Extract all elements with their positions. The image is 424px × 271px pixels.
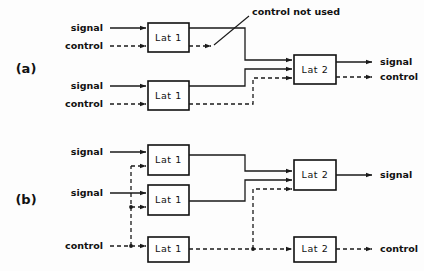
- panel-b-label: (b): [15, 192, 36, 207]
- panel-b-junction-dot-middle: [129, 205, 133, 209]
- panel-a-annotation-control-not-used: control not used: [252, 6, 340, 17]
- panel-b-box-lat1-middle-label: Lat 1: [155, 194, 182, 205]
- latch-pipeline-diagram: (a) signal control signal control Lat 1 …: [0, 0, 424, 271]
- panel-a-box-lat1-lower-label: Lat 1: [155, 90, 182, 101]
- panel-a-input-label-control-2: control: [65, 98, 103, 109]
- panel-b-junction-dot-control-tap: [251, 247, 255, 251]
- panel-a-input-label-control-1: control: [65, 40, 103, 51]
- panel-a-box-lat2-label: Lat 2: [302, 64, 329, 75]
- panel-b-output-label-signal: signal: [380, 169, 412, 180]
- panel-a-label: (a): [16, 61, 37, 76]
- panel-b-input-label-signal-1: signal: [71, 146, 103, 157]
- panel-b-box-lat1-bottom-label: Lat 1: [155, 243, 182, 254]
- panel-a-box-lat1-upper-label: Lat 1: [155, 32, 182, 43]
- panel-b-input-label-signal-2: signal: [71, 187, 103, 198]
- panel-a-output-label-signal: signal: [380, 56, 412, 67]
- panel-a-input-label-signal-1: signal: [71, 22, 103, 33]
- panel-a-output-label-control: control: [380, 71, 418, 82]
- panel-b-box-lat1-upper-label: Lat 1: [155, 154, 182, 165]
- panel-b-box-lat2-bottom-label: Lat 2: [302, 243, 329, 254]
- panel-a-input-label-signal-2: signal: [71, 80, 103, 91]
- panel-b-output-label-control: control: [380, 243, 418, 254]
- panel-b-box-lat2-top-label: Lat 2: [302, 169, 329, 180]
- panel-b-junction-dot-bottom: [129, 244, 133, 248]
- panel-b-input-label-control: control: [65, 240, 103, 251]
- diagram-background: [0, 0, 424, 271]
